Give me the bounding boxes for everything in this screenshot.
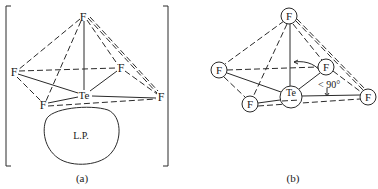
lone-pair-label: L.P. <box>73 130 89 141</box>
edge-top-bottomleft <box>253 24 287 97</box>
figure: F F F F F Te L.P. (a) <box>0 0 378 189</box>
bond-te-bottomleft <box>258 100 280 103</box>
bond-te-rightmid <box>299 73 320 89</box>
caption-b: (b) <box>287 172 300 185</box>
right-bracket <box>163 6 168 166</box>
edge-bottomleft-farright <box>258 99 360 106</box>
bond-te-farright <box>92 96 156 98</box>
bond-te-bottomleft <box>48 97 78 103</box>
atom-f-bottomleft: F <box>247 98 253 110</box>
left-bracket <box>6 6 11 166</box>
bond-te-left <box>227 73 281 92</box>
edge-top-left <box>18 19 80 70</box>
atom-f-rightmid: F <box>323 61 329 73</box>
atom-f-left: F <box>216 64 222 76</box>
edge-left-rightmid <box>227 67 318 70</box>
atom-f-left: F <box>11 65 18 79</box>
edge-left-bottomleft <box>224 77 245 97</box>
atom-te: Te <box>79 89 90 101</box>
atom-f-farright: F <box>365 91 371 103</box>
atom-f-farright: F <box>158 90 165 104</box>
edge-top-farright-2 <box>90 17 158 91</box>
edge-rightmid-farright <box>125 71 157 94</box>
bond-te-left <box>18 74 78 93</box>
caption-a: (a) <box>76 172 89 185</box>
edge-top-left <box>225 21 284 64</box>
atom-f-top: F <box>286 10 292 22</box>
panel-b: F F F F F Te < 90° (b) <box>211 8 376 185</box>
edge-left-rightmid <box>19 68 116 71</box>
edge-top-rightmid <box>87 20 118 65</box>
bond-te-farright <box>302 95 360 96</box>
atom-f-rightmid: F <box>118 61 125 75</box>
angle-label: < 90° <box>318 79 340 90</box>
atom-te: Te <box>286 87 296 98</box>
edge-top-farright-1 <box>88 18 157 93</box>
atom-f-top: F <box>80 10 87 24</box>
atom-f-bottomleft: F <box>40 98 47 112</box>
panel-a: F F F F F Te L.P. (a) <box>6 6 168 185</box>
bond-te-rightmid <box>90 71 117 91</box>
